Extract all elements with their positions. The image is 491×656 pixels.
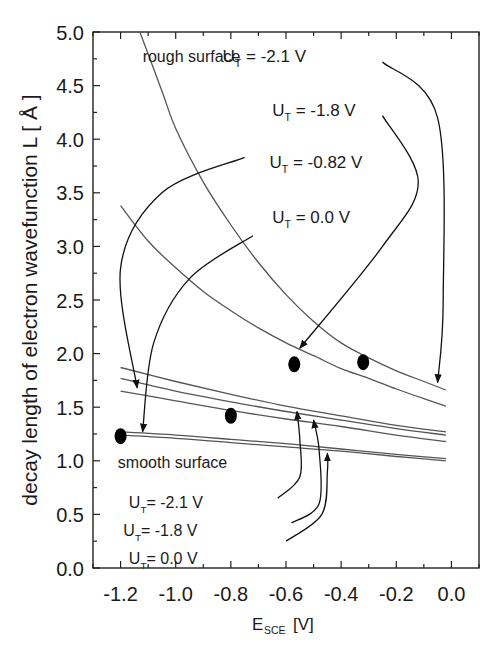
y-axis-label-text: decay length of electron wavefunction L … — [18, 94, 41, 505]
curve-label: UT = -0.82 V — [269, 153, 363, 175]
y-tick-label: 0.5 — [56, 504, 84, 526]
y-tick-label: 4.5 — [56, 75, 84, 97]
x-tick-label: -0.8 — [214, 583, 248, 605]
curve-label: UT = -1.8 V — [272, 101, 356, 123]
annotation-arrow — [286, 453, 328, 541]
data-point — [357, 354, 369, 370]
y-tick-label: 3.5 — [56, 182, 84, 204]
curve-label: UT = 0.0 V — [272, 208, 350, 230]
y-tick-label: 1.0 — [56, 450, 84, 472]
annotation-arrow — [300, 116, 419, 349]
svg-text:E: E — [252, 615, 263, 634]
x-tick-label: -1.2 — [103, 583, 137, 605]
x-tick-label: 0.0 — [438, 583, 466, 605]
data-point — [288, 356, 300, 372]
svg-text:SCE: SCE — [264, 624, 286, 636]
annotation-arrow — [120, 157, 245, 388]
y-tick-label: 3.0 — [56, 236, 84, 258]
curve-label: UT= -1.8 V — [123, 522, 197, 543]
series-curve — [121, 391, 446, 441]
smooth-surface-label: smooth surface — [118, 454, 227, 471]
x-tick-label: -0.4 — [324, 583, 358, 605]
data-markers — [115, 354, 370, 444]
decay-length-chart: -1.2-1.0-0.8-0.6-0.4-0.20.0 0.00.51.01.5… — [0, 0, 491, 656]
annotation-arrow — [292, 420, 322, 523]
x-axis-label-unit: [V] — [293, 615, 314, 634]
data-point — [115, 428, 127, 444]
annotation-arrow — [383, 62, 445, 383]
series-curve — [121, 378, 446, 435]
y-tick-label: 5.0 — [56, 22, 84, 44]
x-tick-label: -0.2 — [379, 583, 413, 605]
y-tick-label: 0.0 — [56, 558, 84, 580]
y-tick-label: 2.0 — [56, 343, 84, 365]
annotation-arrow — [278, 412, 302, 499]
svg-text:[V]: [V] — [293, 615, 314, 634]
x-axis-label: E SCE [V] — [252, 615, 314, 636]
y-tick-label: 4.0 — [56, 129, 84, 151]
y-tick-label: 1.5 — [56, 397, 84, 419]
x-axis-label-main: E — [252, 615, 263, 634]
x-axis-label-sub: SCE — [264, 624, 286, 636]
y-axis-label: decay length of electron wavefunction L … — [18, 94, 41, 505]
data-point — [225, 408, 237, 424]
x-tick-label: -0.6 — [269, 583, 303, 605]
curve-label: UT= -2.1 V — [129, 494, 203, 515]
x-tick-label: -1.0 — [158, 583, 192, 605]
curve-series — [121, 32, 446, 461]
y-tick-label: 2.5 — [56, 290, 84, 312]
